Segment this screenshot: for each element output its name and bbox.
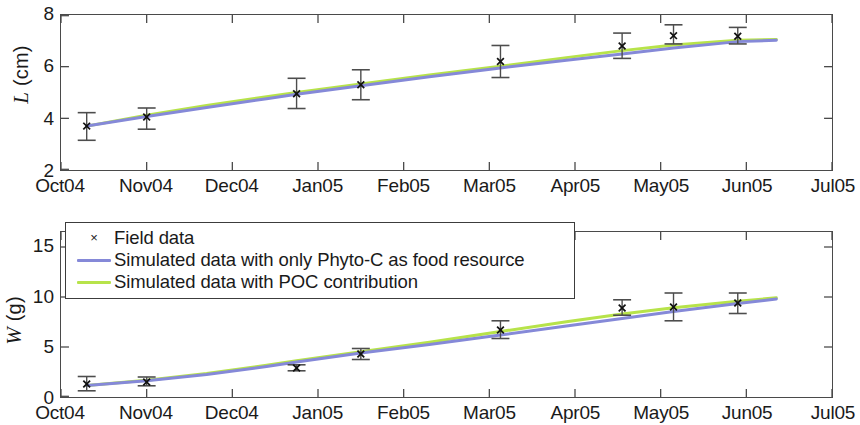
legend-item-field-data: × Field data [74, 227, 564, 249]
x-tick-label: Apr05 [530, 176, 620, 195]
line-swatch-icon-phyto-c [74, 249, 114, 271]
x-tick-label: Dec04 [187, 403, 277, 422]
x-tick-label: Nov04 [101, 403, 191, 422]
legend-line-phyto-c [77, 259, 111, 262]
legend-item-phyto-c: Simulated data with only Phyto-C as food… [74, 249, 564, 271]
legend-label-phyto-c: Simulated data with only Phyto-C as food… [114, 249, 525, 271]
chart-panel-weight: W (g) 051015 Oct04Nov04Dec04Jan05Feb05Ma… [0, 212, 855, 425]
x-tick-label: Oct04 [15, 176, 105, 195]
x-tick-label: Jan05 [273, 403, 363, 422]
y-tick-label: 10 [8, 287, 54, 306]
legend-line-poc [77, 281, 111, 284]
x-tick-label: Oct04 [15, 403, 105, 422]
legend-label-field-data: Field data [114, 227, 194, 249]
plot-area-length [60, 14, 833, 171]
line-swatch-icon-poc [74, 271, 114, 293]
legend: × Field data Simulated data with only Ph… [65, 222, 575, 299]
x-tick-label: Jul05 [788, 176, 860, 195]
x-tick-label: Jun05 [702, 176, 792, 195]
x-tick-label: Dec04 [187, 176, 277, 195]
x-tick-label: Feb05 [359, 176, 449, 195]
y-axis-symbol: L [9, 92, 33, 104]
x-tick-label: Nov04 [101, 176, 191, 195]
legend-item-poc: Simulated data with POC contribution [74, 271, 564, 293]
x-tick-label: Jun05 [702, 403, 792, 422]
y-tick-label: 4 [8, 109, 54, 128]
x-marker-icon: × [74, 227, 114, 249]
x-tick-label: Feb05 [359, 403, 449, 422]
x-tick-label: Apr05 [530, 403, 620, 422]
x-tick-label: Jan05 [273, 176, 363, 195]
y-tick-label: 8 [8, 4, 54, 23]
legend-label-poc: Simulated data with POC contribution [114, 271, 418, 293]
y-tick-label: 5 [8, 337, 54, 356]
x-tick-label: Mar05 [444, 403, 534, 422]
chart-panel-length: L (cm) 2468 Oct04Nov04Dec04Jan05Feb05Mar… [0, 0, 855, 212]
x-tick-label: Jul05 [788, 403, 860, 422]
legend-symbol-field: × [90, 231, 98, 244]
x-tick-label: May05 [616, 403, 706, 422]
y-tick-label: 6 [8, 56, 54, 75]
x-tick-label: May05 [616, 176, 706, 195]
y-tick-label: 15 [8, 236, 54, 255]
plot-graphics-length [61, 15, 832, 170]
x-tick-label: Mar05 [444, 176, 534, 195]
